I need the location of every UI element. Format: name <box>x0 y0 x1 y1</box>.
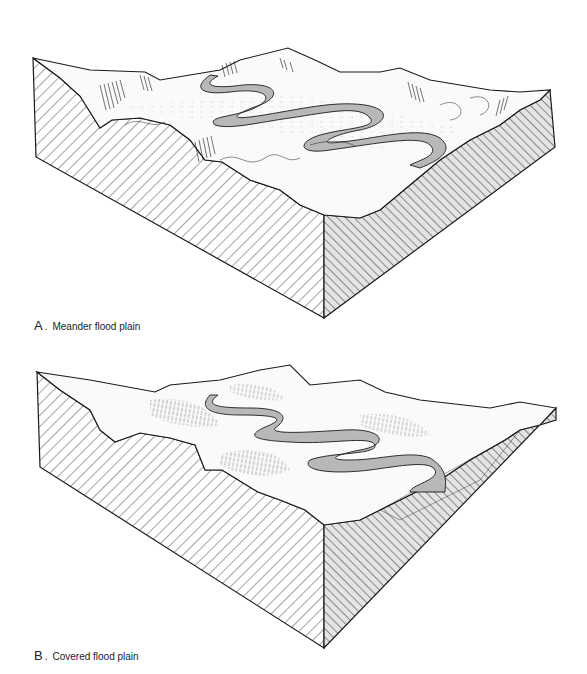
caption-b-letter: B <box>34 648 43 663</box>
block-diagram-a <box>0 0 587 320</box>
block-diagram-b <box>0 330 587 650</box>
figure-b-covered-flood-plain <box>0 330 587 650</box>
caption-b-text: Covered flood plain <box>52 651 138 662</box>
caption-b-separator: . <box>45 651 48 662</box>
caption-b: B . Covered flood plain <box>34 648 139 663</box>
figure-a-meander-flood-plain <box>0 0 587 320</box>
